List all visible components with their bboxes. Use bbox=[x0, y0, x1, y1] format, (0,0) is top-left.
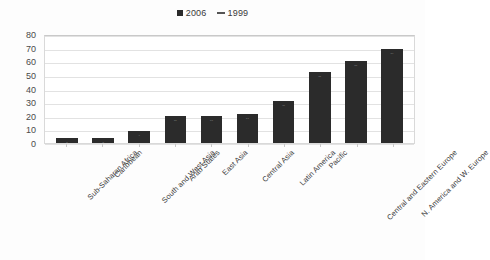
bar-east-asia[interactable]: 20 bbox=[201, 116, 223, 143]
y-axis-tick-20: 20 bbox=[26, 112, 36, 122]
legend-label-2006: 2006 bbox=[186, 8, 207, 18]
y-axis-tick-0: 0 bbox=[31, 139, 36, 149]
x-axis-tick-mark bbox=[66, 144, 67, 147]
bar-arab-states[interactable]: 20 bbox=[165, 116, 187, 143]
x-axis-category-labels: Sub-Saharan AfricaCaribbeanSouth and Wes… bbox=[44, 146, 415, 256]
bar-slot: 31 bbox=[266, 36, 302, 143]
bar-series: 44920202131526069 bbox=[45, 36, 414, 143]
bar-slot: 20 bbox=[193, 36, 229, 143]
y-axis-tick-10: 10 bbox=[26, 125, 36, 135]
bar-n-america-and-w-europe[interactable]: 69 bbox=[381, 49, 403, 143]
legend-label-1999: 1999 bbox=[228, 8, 249, 18]
bar-value-label: 52 bbox=[309, 76, 331, 79]
bar-slot: 60 bbox=[338, 36, 374, 143]
bar-pacific[interactable]: 52 bbox=[309, 72, 331, 143]
chart-legend: 2006 1999 bbox=[0, 8, 425, 18]
legend-entry-2006: 2006 bbox=[177, 8, 207, 18]
bar-value-label: 60 bbox=[345, 65, 367, 68]
x-axis-tick-mark bbox=[320, 144, 321, 147]
y-axis-tick-70: 70 bbox=[26, 44, 36, 54]
x-axis-tick-mark bbox=[284, 144, 285, 147]
bar-slot: 4 bbox=[49, 36, 85, 143]
bar-slot: 9 bbox=[121, 36, 157, 143]
square-marker-icon bbox=[177, 10, 183, 16]
bar-slot: 21 bbox=[229, 36, 265, 143]
bar-south-and-west-asia[interactable]: 9 bbox=[128, 131, 150, 143]
bar-slot: 20 bbox=[157, 36, 193, 143]
y-axis-labels: 80706050403020100 bbox=[0, 35, 40, 144]
x-axis-tick-mark bbox=[248, 144, 249, 147]
bar-value-label: 9 bbox=[128, 135, 150, 138]
y-axis-tick-30: 30 bbox=[26, 98, 36, 108]
x-axis-label-central-asia: Central Asia bbox=[260, 148, 296, 184]
y-axis-tick-40: 40 bbox=[26, 85, 36, 95]
bar-slot: 52 bbox=[302, 36, 338, 143]
bar-central-asia[interactable]: 21 bbox=[237, 114, 259, 143]
bar-central-and-eastern-europe[interactable]: 60 bbox=[345, 61, 367, 143]
y-axis-tick-50: 50 bbox=[26, 71, 36, 81]
bar-caribbean[interactable]: 4 bbox=[92, 138, 114, 143]
x-axis-tick-mark bbox=[139, 144, 140, 147]
bar-value-label: 31 bbox=[273, 105, 295, 108]
x-axis-tick-mark bbox=[175, 144, 176, 147]
plot-area: 44920202131526069 bbox=[44, 35, 415, 144]
x-axis-tick-mark bbox=[393, 144, 394, 147]
bar-value-label: 21 bbox=[237, 118, 259, 121]
bar-value-label: 20 bbox=[165, 120, 187, 123]
bar-value-label: 69 bbox=[381, 53, 403, 56]
x-axis-tick-mark bbox=[102, 144, 103, 147]
legend-entry-1999: 1999 bbox=[217, 8, 249, 18]
x-axis-tick-mark bbox=[357, 144, 358, 147]
y-axis-tick-80: 80 bbox=[26, 30, 36, 40]
bar-value-label: 20 bbox=[201, 120, 223, 123]
bar-slot: 69 bbox=[374, 36, 410, 143]
x-axis-label-east-asia: East Asia bbox=[221, 148, 250, 177]
x-axis-tick-mark bbox=[211, 144, 212, 147]
bar-slot: 4 bbox=[85, 36, 121, 143]
y-axis-tick-60: 60 bbox=[26, 57, 36, 67]
bar-latin-america[interactable]: 31 bbox=[273, 101, 295, 143]
bar-sub-saharan-africa[interactable]: 4 bbox=[56, 138, 78, 143]
dash-marker-icon bbox=[217, 12, 225, 14]
